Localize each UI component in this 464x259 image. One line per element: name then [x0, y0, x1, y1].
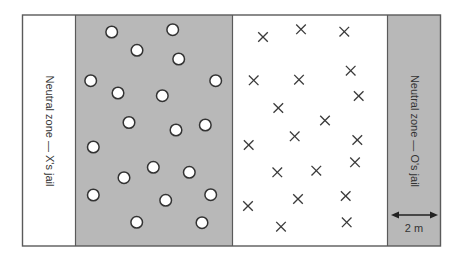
o-team-territory — [76, 15, 233, 246]
o-player-circle-icon — [88, 141, 100, 153]
o-player-circle-icon — [88, 189, 100, 201]
o-player-circle-icon — [131, 45, 143, 57]
o-player-circle-icon — [173, 53, 185, 65]
right-jail-label: Neutral zone — O's jail — [409, 75, 421, 187]
o-player-circle-icon — [148, 162, 160, 174]
o-player-circle-icon — [123, 117, 135, 129]
o-player-circle-icon — [205, 189, 217, 201]
x-team-territory — [233, 15, 388, 246]
o-player-circle-icon — [118, 172, 130, 184]
playing-field-diagram — [0, 0, 464, 259]
o-player-circle-icon — [85, 75, 97, 87]
o-player-circle-icon — [131, 217, 143, 229]
o-player-circle-icon — [210, 75, 222, 87]
o-player-circle-icon — [160, 195, 172, 207]
o-player-circle-icon — [196, 217, 208, 229]
o-player-circle-icon — [170, 124, 182, 136]
scale-label: 2 m — [405, 222, 423, 234]
o-player-circle-icon — [112, 87, 124, 99]
o-player-circle-icon — [200, 119, 212, 131]
o-player-circle-icon — [184, 167, 196, 179]
o-player-circle-icon — [106, 26, 118, 38]
o-player-circle-icon — [157, 90, 169, 102]
o-player-circle-icon — [167, 24, 179, 36]
left-jail-label: Neutral zone — X's jail — [44, 76, 56, 187]
